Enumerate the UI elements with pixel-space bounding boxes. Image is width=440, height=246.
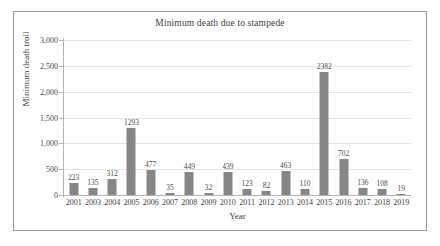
x-tick-label: 2014: [297, 198, 313, 207]
bar-value-label: 108: [376, 179, 387, 188]
y-axis-tick-labels: 05001,0001,5002,0002,5003,000: [14, 40, 58, 195]
bar-value-label: 477: [145, 160, 156, 169]
bar-value-label: 19: [398, 184, 406, 193]
x-tick-label: 2007: [162, 198, 178, 207]
bar-value-label: 1293: [124, 118, 139, 127]
bar[interactable]: [358, 188, 367, 195]
x-tick-label: 2013: [278, 198, 294, 207]
bar[interactable]: [243, 189, 252, 195]
bar-value-label: 223: [68, 173, 79, 182]
bar[interactable]: [320, 72, 329, 195]
gridline: [64, 195, 411, 196]
bar-slot[interactable]: 439: [218, 40, 237, 195]
bar-slot[interactable]: 123: [238, 40, 257, 195]
x-tick-label: 2008: [181, 198, 197, 207]
bar-value-label: 312: [107, 169, 118, 178]
bar-slot[interactable]: 312: [103, 40, 122, 195]
x-tick-label: 2003: [85, 198, 101, 207]
bar-value-label: 32: [205, 183, 213, 192]
y-tick-label: 3,000: [40, 36, 58, 45]
bar[interactable]: [281, 171, 290, 195]
bar-slot[interactable]: 463: [276, 40, 295, 195]
x-axis-tick-labels: 2001200320042005200620072008200920102011…: [64, 198, 411, 210]
bar[interactable]: [223, 172, 232, 195]
chart-title: Minimum death due to stampede: [14, 18, 426, 28]
bar[interactable]: [108, 179, 117, 195]
bar-value-label: 110: [299, 179, 310, 188]
x-tick-label: 2017: [355, 198, 371, 207]
y-tick-label: 2,500: [40, 61, 58, 70]
bar-value-label: 136: [357, 178, 368, 187]
bar-value-label: 135: [87, 178, 98, 187]
x-tick-label: 2006: [143, 198, 159, 207]
y-tick-label: 500: [46, 165, 58, 174]
bar-slot[interactable]: 449: [180, 40, 199, 195]
x-tick-label: 2015: [316, 198, 332, 207]
bar-value-label: 463: [280, 161, 291, 170]
bar-slot[interactable]: 35: [160, 40, 179, 195]
bar-slot[interactable]: 702: [334, 40, 353, 195]
bar-slot[interactable]: 32: [199, 40, 218, 195]
y-tick-mark: [59, 92, 63, 93]
bar[interactable]: [127, 128, 136, 195]
y-tick-mark: [59, 143, 63, 144]
y-tick-mark: [59, 40, 63, 41]
bar-value-label: 35: [166, 183, 174, 192]
y-tick-mark: [59, 118, 63, 119]
y-tick-mark: [59, 195, 63, 196]
bar[interactable]: [397, 194, 406, 195]
y-tick-label: 1,500: [40, 113, 58, 122]
plot-region: 2231353121293477354493243912382463110238…: [64, 40, 411, 195]
bar[interactable]: [339, 159, 348, 195]
bar-slot[interactable]: 477: [141, 40, 160, 195]
bar-slot[interactable]: 136: [353, 40, 372, 195]
x-tick-label: 2019: [393, 198, 409, 207]
bar-value-label: 449: [184, 162, 195, 171]
bar-slot[interactable]: 82: [257, 40, 276, 195]
bar[interactable]: [300, 189, 309, 195]
y-tick-mark: [59, 66, 63, 67]
bar[interactable]: [88, 188, 97, 195]
x-tick-label: 2016: [336, 198, 352, 207]
bar[interactable]: [69, 183, 78, 195]
bar-slot[interactable]: 110: [295, 40, 314, 195]
y-tick-mark: [59, 169, 63, 170]
bar[interactable]: [185, 172, 194, 195]
y-tick-label: 0: [54, 191, 58, 200]
bar[interactable]: [166, 193, 175, 195]
x-tick-label: 2009: [201, 198, 217, 207]
bar-slot[interactable]: 19: [392, 40, 411, 195]
bar-value-label: 2382: [317, 62, 332, 71]
bar[interactable]: [378, 189, 387, 195]
x-tick-label: 2001: [66, 198, 82, 207]
bar-slot[interactable]: 135: [83, 40, 102, 195]
bar-value-label: 123: [242, 179, 253, 188]
x-tick-label: 2004: [104, 198, 120, 207]
chart-figure-frame: Minimum death due to stampede Minimum de…: [13, 11, 427, 231]
bar-slot[interactable]: 2382: [315, 40, 334, 195]
bar-value-label: 82: [263, 181, 271, 190]
bar-slot[interactable]: 223: [64, 40, 83, 195]
bar[interactable]: [146, 170, 155, 195]
bar[interactable]: [262, 191, 271, 195]
x-axis-title: Year: [64, 211, 411, 221]
bar[interactable]: [204, 193, 213, 195]
y-tick-label: 1,000: [40, 139, 58, 148]
x-tick-label: 2011: [239, 198, 255, 207]
x-tick-label: 2018: [374, 198, 390, 207]
bar-value-label: 439: [222, 162, 233, 171]
x-tick-label: 2010: [220, 198, 236, 207]
x-tick-label: 2005: [123, 198, 139, 207]
bar-slot[interactable]: 108: [372, 40, 391, 195]
bar-value-label: 702: [338, 149, 349, 158]
bar-slot[interactable]: 1293: [122, 40, 141, 195]
x-tick-label: 2012: [258, 198, 274, 207]
y-tick-label: 2,000: [40, 87, 58, 96]
